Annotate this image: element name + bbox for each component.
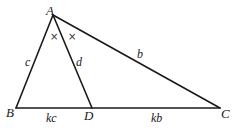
side-label-c: c bbox=[25, 55, 31, 69]
point-label-A: A bbox=[45, 3, 54, 18]
point-label-D: D bbox=[83, 108, 94, 123]
side-label-b: b bbox=[137, 47, 143, 61]
side-label-kc: kc bbox=[46, 111, 57, 125]
point-label-B: B bbox=[6, 105, 14, 120]
triangle-diagram: A B C D c d b kc kb × × bbox=[0, 0, 237, 132]
segment-AB bbox=[16, 15, 53, 108]
segment-AD bbox=[53, 15, 92, 108]
point-label-C: C bbox=[221, 106, 230, 121]
side-label-d: d bbox=[76, 55, 83, 69]
angle-mark-left: × bbox=[50, 31, 58, 42]
side-label-kb: kb bbox=[151, 111, 162, 125]
angle-mark-right: × bbox=[68, 31, 76, 42]
